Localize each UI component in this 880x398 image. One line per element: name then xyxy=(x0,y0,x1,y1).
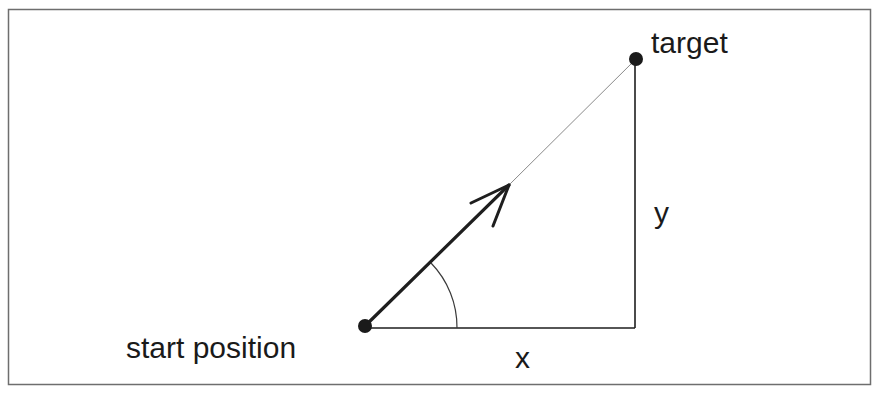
target-dot xyxy=(629,52,643,66)
start-position-dot xyxy=(358,319,372,333)
target-label: target xyxy=(651,26,728,59)
vector-diagram: target start position x y xyxy=(0,0,880,398)
x-axis-label: x xyxy=(515,341,530,374)
diagram-canvas: target start position x y xyxy=(0,0,880,398)
start-position-label: start position xyxy=(126,331,296,364)
y-axis-label: y xyxy=(654,196,669,229)
